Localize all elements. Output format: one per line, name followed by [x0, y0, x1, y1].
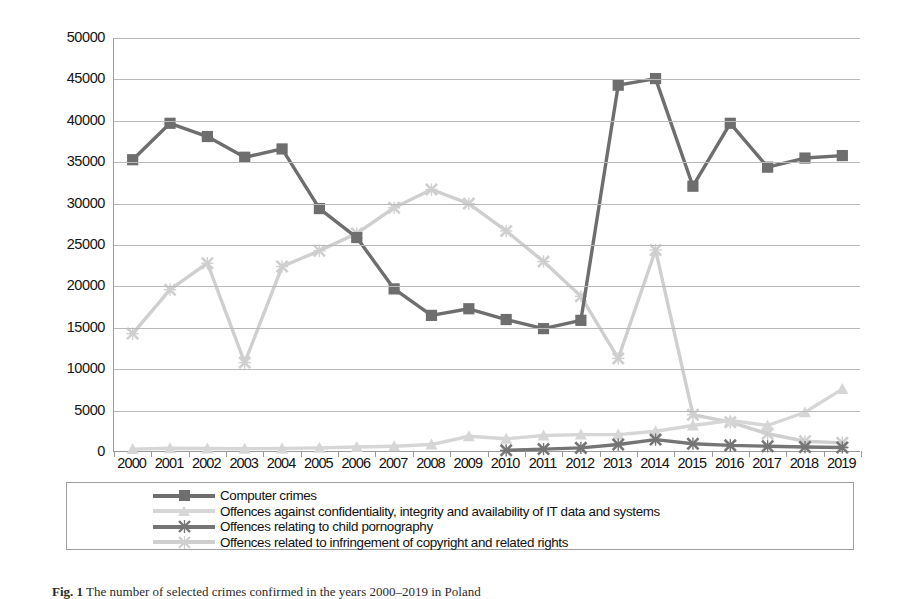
figure: crime confirmed 050001000015000200002500…: [0, 0, 899, 599]
x-tick-label: 2011: [523, 455, 563, 471]
legend-item[interactable]: Computer crimes: [67, 488, 853, 504]
x-tick-label: 2007: [373, 455, 413, 471]
gridline: [114, 286, 860, 287]
gridline: [114, 204, 860, 205]
legend-item[interactable]: Offences relating to child pornography: [67, 519, 853, 535]
x-tick-label: 2003: [224, 455, 264, 471]
y-tick-label: 40000: [35, 112, 105, 128]
data-point-marker: [725, 118, 736, 129]
x-tick-label: 2001: [149, 455, 189, 471]
data-point-marker: [613, 80, 624, 91]
gridline: [114, 162, 860, 163]
y-tick-label: 25000: [35, 236, 105, 252]
legend-label: Computer crimes: [220, 488, 317, 503]
data-point-marker: [276, 143, 287, 154]
legend-item[interactable]: Offences against confidentiality, integr…: [67, 504, 853, 520]
x-tick-label: 2017: [747, 455, 787, 471]
x-tick-label: 2005: [298, 455, 338, 471]
data-point-marker: [127, 154, 138, 165]
gridline: [114, 121, 860, 122]
gridline: [114, 369, 860, 370]
legend-item[interactable]: Offences related to infringement of copy…: [67, 535, 853, 551]
series-line: [506, 440, 842, 451]
data-point-marker: [837, 150, 848, 161]
gridline: [114, 245, 860, 246]
legend-key-2: [153, 505, 215, 518]
gridline: [114, 328, 860, 329]
data-point-marker: [314, 203, 325, 214]
legend-label: Offences related to infringement of copy…: [220, 535, 568, 550]
legend-marker-x-icon: [178, 536, 191, 549]
data-point-marker: [202, 131, 213, 142]
y-tick-label: 45000: [35, 70, 105, 86]
x-tick-label: 2004: [261, 455, 301, 471]
x-tick-label: 2014: [635, 455, 675, 471]
x-tick-label: 2009: [448, 455, 488, 471]
series-line: [133, 190, 843, 443]
x-tick-label: 2013: [597, 455, 637, 471]
data-point-marker: [389, 283, 400, 294]
data-point-marker: [501, 314, 512, 325]
x-tick-label: 2012: [560, 455, 600, 471]
x-tick-label: 2019: [821, 455, 861, 471]
series-4: [127, 183, 849, 449]
data-point-marker: [351, 232, 362, 243]
legend-key-3: [153, 520, 215, 533]
legend-marker-x-icon: [178, 520, 191, 533]
x-tick-label: 2002: [186, 455, 226, 471]
data-point-marker: [164, 118, 175, 129]
x-tick-label: 2006: [336, 455, 376, 471]
y-tick-label: 0: [35, 443, 105, 459]
y-tick-label: 10000: [35, 360, 105, 376]
legend-marker-triangle-icon: [178, 506, 190, 516]
y-tick-label: 35000: [35, 153, 105, 169]
legend-label: Offences against confidentiality, integr…: [220, 504, 660, 519]
legend-marker-square-icon: [179, 490, 190, 501]
caption-text: The number of selected crimes confirmed …: [86, 584, 481, 599]
y-tick-label: 50000: [35, 29, 105, 45]
y-tick-label: 30000: [35, 195, 105, 211]
gridline: [114, 38, 860, 39]
legend-key-4: [153, 536, 215, 549]
data-point-marker: [426, 310, 437, 321]
x-tick-label: 2015: [672, 455, 712, 471]
data-point-marker: [836, 383, 848, 394]
chart-legend: Computer crimesOffences against confiden…: [66, 482, 854, 550]
x-tick-label: 2010: [485, 455, 525, 471]
y-tick-label: 15000: [35, 319, 105, 335]
legend-key-1: [153, 489, 215, 502]
series-2: [127, 383, 849, 454]
x-tick-label: 2016: [709, 455, 749, 471]
data-point-marker: [239, 152, 250, 163]
data-point-marker: [463, 303, 474, 314]
x-tick-label: 2018: [784, 455, 824, 471]
data-point-marker: [762, 162, 773, 173]
x-axis-tick-labels: 2000200120022003200420052006200720082009…: [113, 455, 860, 477]
data-point-marker: [575, 315, 586, 326]
data-point-marker: [687, 181, 698, 192]
x-tick-label: 2008: [410, 455, 450, 471]
gridline: [114, 79, 860, 80]
legend-label: Offences relating to child pornography: [220, 519, 433, 534]
x-tick-label: 2000: [112, 455, 152, 471]
caption-prefix: Fig. 1: [52, 584, 83, 599]
figure-caption: Fig. 1 The number of selected crimes con…: [52, 584, 852, 599]
gridline: [114, 411, 860, 412]
y-tick-label: 20000: [35, 277, 105, 293]
plot-area: [113, 38, 860, 452]
y-tick-label: 5000: [35, 402, 105, 418]
